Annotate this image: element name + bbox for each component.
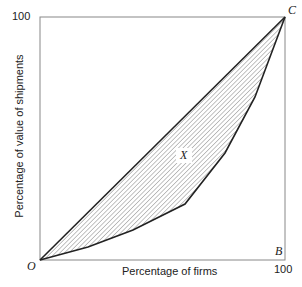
origin-label: O bbox=[27, 259, 36, 274]
x-axis-label: Percentage of firms bbox=[122, 265, 217, 277]
diagonal-line bbox=[40, 17, 285, 260]
x-axis-max-tick: 100 bbox=[274, 263, 292, 275]
y-axis-label: Percentage of value of shipments bbox=[13, 51, 25, 221]
y-axis-max-tick: 100 bbox=[12, 10, 30, 22]
region-x-label: X bbox=[180, 148, 187, 163]
lorenz-diagram bbox=[0, 0, 302, 287]
point-c-label: C bbox=[288, 3, 296, 18]
point-b-label: B bbox=[275, 244, 282, 259]
